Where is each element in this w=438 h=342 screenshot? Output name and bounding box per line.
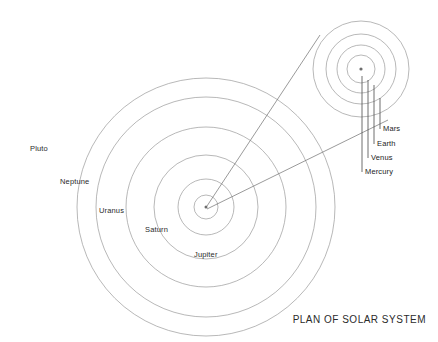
solar-system-plan-figure: Pluto Neptune Uranus Saturn Jupiter Mars… [0,0,438,342]
inset-orbit-group [313,21,409,117]
planet-label-earth: Earth [377,139,396,148]
orbit-label-saturn: Saturn [145,225,168,234]
orbit-label-uranus: Uranus [99,206,124,215]
callout-line-upper [207,35,320,206]
orbit-label-neptune: Neptune [60,177,89,186]
orbit-label-jupiter: Jupiter [194,250,218,259]
planet-label-mars: Mars [383,124,400,133]
planet-label-venus: Venus [371,153,393,162]
orbit-label-pluto: Pluto [30,144,48,153]
callout-group [207,35,388,209]
figure-title: PLAN OF SOLAR SYSTEM [293,314,426,325]
sun-marker-inset [359,67,362,70]
planet-label-mercury: Mercury [365,167,393,176]
